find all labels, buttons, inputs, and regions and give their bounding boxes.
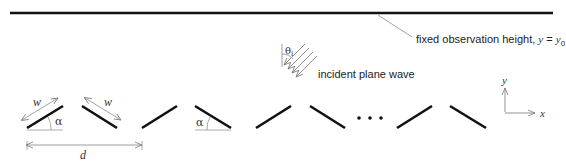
strip-6: [310, 106, 345, 128]
incident-wave-label: incident plane wave: [318, 68, 415, 80]
alpha2-arc: [207, 117, 210, 130]
alpha1-arc: [48, 117, 51, 130]
observation-label: fixed observation height, y = y0: [416, 33, 566, 48]
observation-leader-line: [378, 15, 412, 37]
alpha1-label: α: [55, 115, 63, 128]
ellipsis-dots: [357, 116, 383, 120]
w1-label: w: [33, 95, 41, 109]
strip-2: [82, 106, 117, 128]
d-label: d: [80, 148, 87, 162]
strip-3: [142, 106, 177, 128]
w2-dimension: [85, 98, 121, 120]
strip-5: [256, 106, 291, 128]
alpha2-label: α: [196, 116, 204, 129]
diagram-canvas: fixed observation height, y = y0 α α w w…: [0, 0, 566, 166]
strips: [27, 106, 486, 128]
periodic-strip-array-diagram: fixed observation height, y = y0 α α w w…: [0, 0, 566, 166]
strip-7: [397, 106, 432, 128]
strip-8: [450, 106, 486, 128]
w2-label: w: [104, 95, 112, 109]
x-axis-label: x: [539, 107, 545, 119]
y-axis-label: y: [501, 74, 507, 86]
